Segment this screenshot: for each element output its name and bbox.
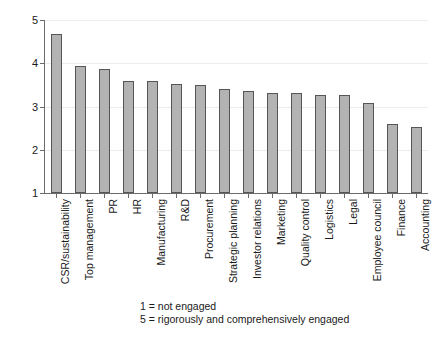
- x-axis-label: Top management: [68, 199, 92, 295]
- bar: [171, 84, 182, 193]
- bar: [243, 91, 254, 193]
- x-axis-label: Marketing: [260, 199, 284, 295]
- y-tick-label: 2: [32, 144, 38, 156]
- x-tick-mark: [176, 194, 177, 198]
- x-axis-label: Logistics: [308, 199, 332, 295]
- bar: [267, 93, 278, 193]
- x-axis-label: R&D: [164, 199, 188, 295]
- x-tick-mark: [128, 194, 129, 198]
- x-axis-line: [44, 193, 428, 194]
- x-axis-label: HR: [116, 199, 140, 295]
- bar: [195, 85, 206, 193]
- bar: [387, 124, 398, 193]
- x-axis-label: Accounting: [404, 199, 428, 295]
- bar: [315, 95, 326, 193]
- bar: [339, 95, 350, 193]
- bar: [219, 89, 230, 193]
- x-tick-mark: [296, 194, 297, 198]
- bar: [363, 103, 374, 193]
- y-tick-label: 5: [32, 14, 38, 26]
- bar-chart-figure: Mean 12345 CSR/sustainabilityTop managem…: [0, 0, 432, 343]
- x-tick-mark: [344, 194, 345, 198]
- x-axis-label: Quality control: [284, 199, 308, 295]
- x-tick-mark: [200, 194, 201, 198]
- bar: [99, 69, 110, 193]
- x-axis-label: Finance: [380, 199, 404, 295]
- tick-mark: [40, 63, 44, 64]
- bar-series: [45, 20, 428, 193]
- bar: [147, 81, 158, 193]
- bar: [411, 127, 422, 193]
- tick-mark: [40, 107, 44, 108]
- caption-line-1: 1 = not engaged: [140, 300, 349, 313]
- y-tick-label: 1: [32, 187, 38, 199]
- bar: [75, 66, 86, 193]
- x-tick-mark: [224, 194, 225, 198]
- x-axis-label: Investor relations: [236, 199, 260, 295]
- plot-area: 12345: [44, 20, 428, 193]
- x-tick-mark: [56, 194, 57, 198]
- x-tick-mark: [248, 194, 249, 198]
- x-axis-label: PR: [92, 199, 116, 295]
- scale-legend-caption: 1 = not engaged 5 = rigorously and compr…: [140, 300, 349, 326]
- x-axis-label: CSR/sustainability: [44, 199, 68, 295]
- caption-line-2: 5 = rigorously and comprehensively engag…: [140, 313, 349, 326]
- x-axis-label: Employee council: [356, 199, 380, 295]
- x-axis: [44, 193, 428, 198]
- tick-mark: [40, 20, 44, 21]
- bar: [51, 34, 62, 193]
- bar: [291, 93, 302, 193]
- x-axis-label: Manufacturing: [140, 199, 164, 295]
- x-tick-mark: [416, 194, 417, 198]
- x-axis-label: Strategic planning: [212, 199, 236, 295]
- x-tick-mark: [320, 194, 321, 198]
- x-tick-mark: [152, 194, 153, 198]
- y-axis-label: Mean: [0, 107, 45, 125]
- x-tick-mark: [80, 194, 81, 198]
- y-tick-label: 4: [32, 57, 38, 69]
- y-tick-label: 3: [32, 101, 38, 113]
- x-tick-mark: [368, 194, 369, 198]
- x-axis-label: Legal: [332, 199, 356, 295]
- x-axis-label-text: Accounting: [420, 199, 431, 251]
- x-axis-label: Procurement: [188, 199, 212, 295]
- x-tick-mark: [104, 194, 105, 198]
- x-axis-category-labels: CSR/sustainabilityTop managementPRHRManu…: [44, 199, 428, 295]
- x-tick-mark: [272, 194, 273, 198]
- tick-mark: [40, 150, 44, 151]
- bar: [123, 81, 134, 193]
- x-tick-mark: [392, 194, 393, 198]
